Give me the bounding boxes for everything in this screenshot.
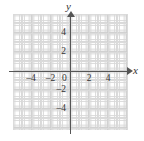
- x-axis-line: [9, 71, 128, 72]
- y-tick-label-4: 4: [54, 28, 66, 38]
- coordinate-plane-figure: x y 0 –4 –2 2 4 4 2 –2 –4: [0, 0, 144, 141]
- y-tick-label-neg4: –4: [52, 104, 66, 114]
- x-tick-label-4: 4: [106, 74, 111, 84]
- x-tick-label-2: 2: [87, 74, 92, 84]
- x-tick-label-neg2: –2: [46, 74, 56, 84]
- y-tick-label-neg2: –2: [52, 85, 66, 95]
- x-axis-label: x: [133, 65, 138, 76]
- x-tick-label-neg4: –4: [26, 74, 36, 84]
- y-axis-label: y: [66, 1, 71, 12]
- origin-label: 0: [62, 74, 67, 84]
- y-axis-line: [70, 16, 71, 134]
- y-tick-label-2: 2: [54, 47, 66, 57]
